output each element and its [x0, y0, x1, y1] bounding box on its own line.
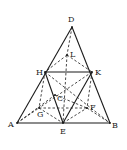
label-B: B — [112, 121, 118, 130]
label-G: G — [37, 110, 43, 119]
label-K: K — [95, 68, 102, 77]
geometry-diagram: D L H K C F G A E B — [0, 0, 127, 150]
label-A: A — [7, 120, 14, 129]
label-D: D — [68, 15, 74, 24]
segment-EF — [63, 108, 87, 123]
label-L: L — [70, 50, 76, 59]
label-F: F — [90, 103, 96, 112]
label-C: C — [57, 94, 63, 103]
segment-LH — [45, 55, 67, 72]
segment-DA — [17, 27, 72, 123]
label-E: E — [60, 127, 66, 136]
point-labels: D L H K C F G A E B — [7, 15, 118, 136]
segment-AG — [17, 108, 39, 123]
label-H: H — [36, 68, 43, 77]
segment-AC — [17, 95, 55, 123]
